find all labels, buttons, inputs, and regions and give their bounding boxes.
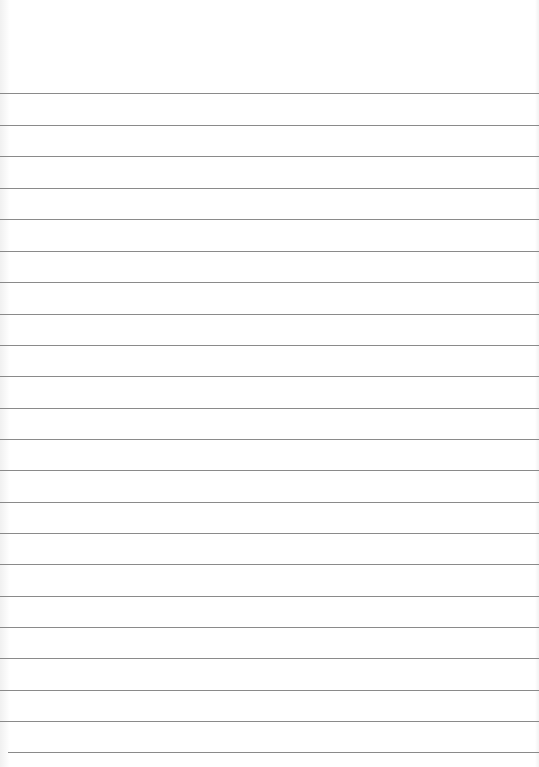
ruled-line: [0, 408, 539, 409]
ruled-line: [0, 282, 539, 283]
ruled-line: [0, 188, 539, 189]
lined-paper-sheet: [0, 0, 539, 767]
ruled-line: [0, 470, 539, 471]
ruled-line: [0, 502, 539, 503]
ruled-line: [0, 721, 539, 722]
ruled-line: [0, 439, 539, 440]
ruled-line: [0, 219, 539, 220]
ruled-line: [0, 314, 539, 315]
ruled-line: [0, 690, 539, 691]
ruled-line: [0, 345, 539, 346]
ruled-line: [0, 93, 539, 94]
ruled-line: [0, 376, 539, 377]
ruled-line: [0, 251, 539, 252]
ruled-line: [0, 125, 539, 126]
ruled-line: [8, 752, 539, 753]
ruled-line: [0, 533, 539, 534]
ruled-line: [0, 156, 539, 157]
ruled-line: [0, 564, 539, 565]
ruled-line: [0, 658, 539, 659]
ruled-line: [0, 596, 539, 597]
right-edge-shadow: [535, 0, 539, 767]
ruled-line: [0, 627, 539, 628]
left-edge-shadow: [0, 0, 10, 767]
